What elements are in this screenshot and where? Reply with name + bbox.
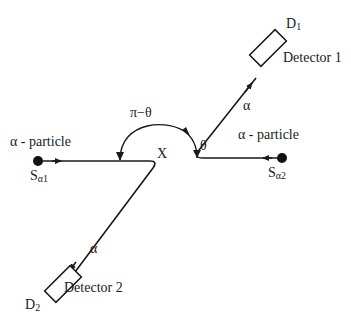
- detector-2-path-alpha-label: α: [90, 241, 98, 256]
- angle-pi-minus-theta-label: π−θ: [130, 105, 152, 120]
- arrow-up-right-icon: [245, 83, 252, 92]
- source-1-particle-label: α - particle: [10, 134, 71, 149]
- detector-2-name-label: Detector 2: [64, 280, 123, 295]
- detector-2-id-label: D2: [25, 297, 40, 313]
- scattering-diagram: α - particle Sα1 α - particle Sα2 X π−θ …: [0, 0, 351, 321]
- source-2-particle-label: α - particle: [238, 127, 299, 142]
- arc-arrowhead-icon: [116, 152, 124, 161]
- detector-1-name-label: Detector 1: [283, 50, 342, 65]
- angle-theta-label: θ: [200, 138, 207, 153]
- collision-point-label: X: [157, 146, 167, 161]
- detector-1-id-label: D1: [286, 16, 301, 32]
- source-1-dot-icon: [33, 156, 43, 166]
- trajectory-source2-to-detector1: [197, 78, 282, 158]
- source-1-label: Sα1: [30, 168, 48, 184]
- angle-arc-pi-minus-theta: [120, 125, 188, 160]
- detector-1-path-alpha-label: α: [243, 98, 251, 113]
- detector-1-box: [250, 30, 287, 67]
- source-2-dot-icon: [277, 153, 287, 163]
- source-2-label: Sα2: [268, 165, 286, 181]
